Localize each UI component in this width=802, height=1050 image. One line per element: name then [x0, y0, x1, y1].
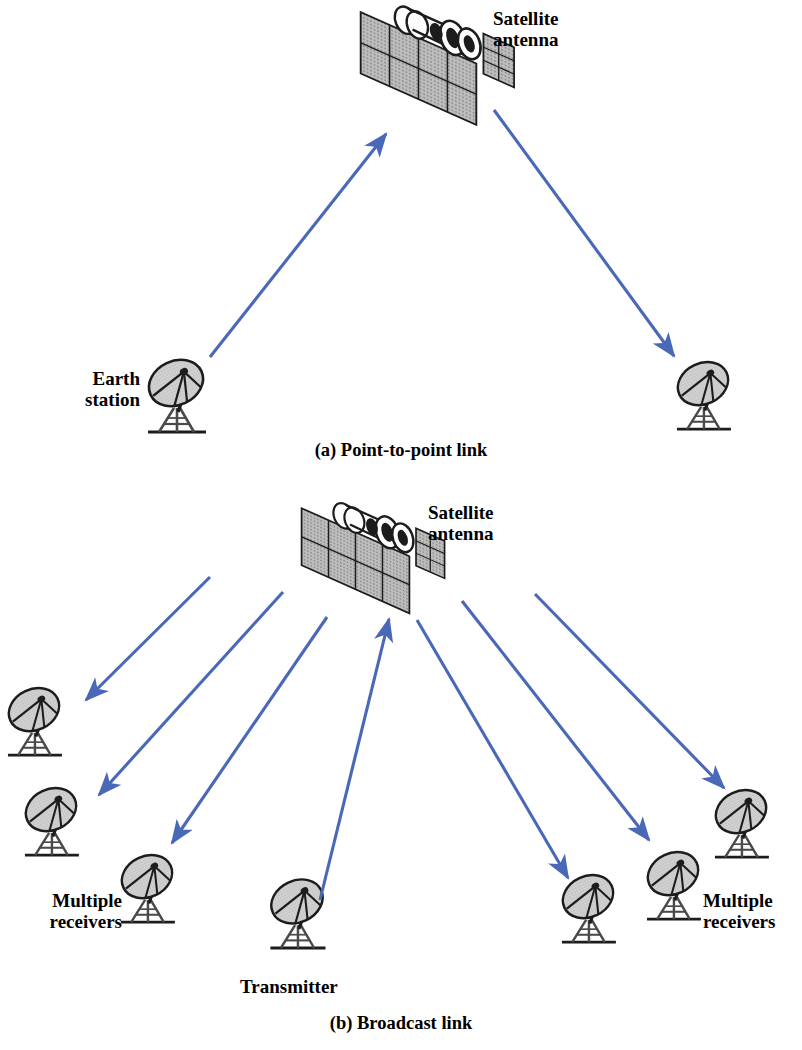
earth-station-label: Earth station: [60, 368, 140, 411]
caption-a: (a) Point-to-point link: [0, 440, 802, 461]
multiple-receivers-label-right: Multiple receivers: [703, 890, 802, 933]
transmitter-label: Transmitter: [240, 976, 338, 997]
multiple-receivers-label-left: Multiple receivers: [0, 890, 122, 933]
caption-b: (b) Broadcast link: [0, 1013, 802, 1034]
satellite-antenna-label-b: Satellite antenna: [428, 502, 493, 545]
satellite-antenna-label-a: Satellite antenna: [493, 8, 558, 51]
